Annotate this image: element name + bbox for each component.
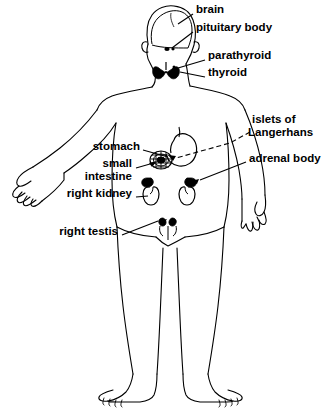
leg-left-outer <box>117 227 133 374</box>
leader-thyroid <box>180 72 205 77</box>
stomach-lesser-curve <box>171 140 174 153</box>
foot-right-sole <box>183 374 233 402</box>
anatomical-figure: brain pituitary body parathyroid thyroid… <box>0 0 328 411</box>
label-right-kidney: right kidney <box>22 187 132 200</box>
leader-small-intestine <box>136 164 150 168</box>
hand-right-finger-4 <box>241 221 246 228</box>
label-stomach: stomach <box>40 140 140 153</box>
brain-outline <box>151 11 192 48</box>
label-brain: brain <box>196 3 224 16</box>
label-islets-line-1: islets of <box>252 113 295 126</box>
label-adrenal-body: adrenal body <box>249 152 321 165</box>
left-testis <box>169 218 176 226</box>
foot-right-outline <box>208 374 242 401</box>
hand-left-thumb <box>17 167 33 186</box>
leader-lines-group <box>122 14 250 235</box>
arrowheads-group <box>149 155 199 225</box>
neck-right <box>186 64 190 86</box>
leader-islets <box>176 132 250 158</box>
label-thyroid: thyroid <box>208 66 247 79</box>
organs-group <box>142 11 197 240</box>
brain-fissure <box>171 13 174 27</box>
leg-right-inner <box>177 248 183 374</box>
esophagus <box>179 127 180 137</box>
pituitary-stalk-marker <box>171 48 174 51</box>
shoulder-right <box>190 86 245 110</box>
label-pituitary-body: pituitary body <box>196 21 272 34</box>
right-kidney-hilum <box>150 187 153 194</box>
label-islets-line-2: Langerhans <box>248 126 313 139</box>
right-adrenal-body <box>142 178 154 187</box>
left-kidney-hilum <box>185 187 188 194</box>
parathyroid-gland-lower <box>174 71 177 74</box>
pancreas-islets-mass <box>150 151 172 169</box>
scrotum-left-edge <box>160 226 163 236</box>
leader-pituitary <box>172 32 193 48</box>
label-parathyroid: parathyroid <box>208 49 271 62</box>
skull-outline <box>147 6 195 64</box>
label-small: small <box>32 157 132 170</box>
body-diagram-svg <box>0 0 328 411</box>
pituitary-body-marker <box>164 47 169 51</box>
leader-right-testis <box>122 221 158 235</box>
leader-right-kidney <box>136 196 148 197</box>
scrotum-right-edge <box>173 226 176 236</box>
foot-left-outline <box>99 374 133 401</box>
hip-left <box>117 227 156 237</box>
left-kidney-outline <box>179 187 195 205</box>
hand-right-finger-1 <box>257 212 266 225</box>
parathyroid-gland-upper <box>173 66 176 69</box>
shoulder-left <box>97 87 152 110</box>
label-intestine: intestine <box>32 170 132 183</box>
groin-outline <box>156 237 185 246</box>
leader-parathyroid <box>178 60 205 68</box>
torso-side-right <box>224 123 229 227</box>
hip-right <box>185 227 224 237</box>
brain-base <box>152 45 188 48</box>
label-right-testis: right testis <box>18 225 118 238</box>
leg-left-inner <box>157 248 163 374</box>
leg-right-outer <box>208 227 224 374</box>
